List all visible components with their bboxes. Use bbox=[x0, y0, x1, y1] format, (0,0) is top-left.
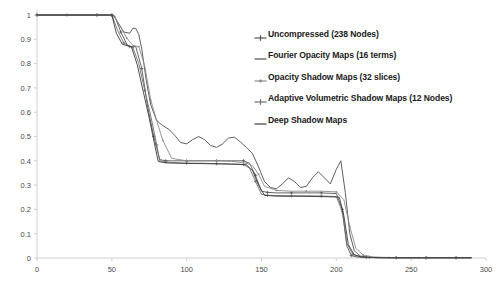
legend-item-label: Opacity Shadow Maps (32 slices) bbox=[268, 72, 400, 82]
legend-marker-line-icon bbox=[254, 115, 267, 125]
x-tick-label: 50 bbox=[108, 265, 116, 274]
y-tick-label: 0.5 bbox=[21, 132, 31, 141]
marker bbox=[276, 190, 278, 192]
legend-item-label: Deep Shadow Maps bbox=[268, 115, 347, 125]
marker bbox=[362, 254, 364, 256]
x-tick-label: 250 bbox=[405, 265, 418, 274]
chart-legend: Uncompressed (238 Nodes)Fourier Opacity … bbox=[254, 23, 494, 131]
marker bbox=[349, 226, 351, 228]
marker bbox=[162, 139, 164, 141]
x-tick-label: 200 bbox=[330, 265, 343, 274]
marker bbox=[186, 160, 188, 162]
x-tick-label: 300 bbox=[480, 265, 493, 274]
legend-marker-dot-icon bbox=[254, 72, 267, 82]
y-tick-label: 0.7 bbox=[21, 84, 31, 93]
legend-item-label: Fourier Opacity Maps (16 terms) bbox=[268, 50, 396, 60]
y-tick-label: 0.9 bbox=[21, 35, 31, 44]
marker bbox=[335, 191, 337, 193]
legend-item: Opacity Shadow Maps (32 slices) bbox=[254, 66, 494, 88]
legend-marker-plus-icon bbox=[254, 93, 267, 103]
marker bbox=[138, 46, 140, 48]
y-tick-label: 1 bbox=[27, 11, 31, 20]
legend-item: Uncompressed (238 Nodes) bbox=[254, 23, 494, 45]
marker bbox=[246, 162, 248, 164]
y-tick-label: 0.2 bbox=[21, 205, 31, 214]
x-tick-label: 150 bbox=[255, 265, 268, 274]
x-tick-label: 0 bbox=[35, 265, 39, 274]
chart-container: 00.10.20.30.40.50.60.70.80.9105010015020… bbox=[0, 0, 496, 290]
legend-marker-line-icon bbox=[254, 50, 267, 60]
marker bbox=[114, 17, 116, 19]
legend-item: Adaptive Volumetric Shadow Maps (12 Node… bbox=[254, 88, 494, 110]
x-tick-label: 100 bbox=[180, 265, 193, 274]
y-tick-label: 0.4 bbox=[21, 157, 31, 166]
legend-item: Fourier Opacity Maps (16 terms) bbox=[254, 45, 494, 67]
marker bbox=[150, 99, 152, 101]
legend-dot bbox=[259, 79, 262, 82]
marker bbox=[126, 37, 128, 39]
y-tick-label: 0 bbox=[27, 254, 31, 263]
y-tick-label: 0.8 bbox=[21, 59, 31, 68]
marker bbox=[216, 160, 218, 162]
legend-marker-plus-icon bbox=[254, 29, 267, 39]
legend-item-label: Adaptive Volumetric Shadow Maps (12 Node… bbox=[268, 93, 452, 103]
legend-item-label: Uncompressed (238 Nodes) bbox=[268, 29, 379, 39]
legend-item: Deep Shadow Maps bbox=[254, 109, 494, 131]
marker bbox=[258, 173, 260, 175]
marker bbox=[306, 190, 308, 192]
y-tick-label: 0.6 bbox=[21, 108, 31, 117]
y-tick-label: 0.3 bbox=[21, 181, 31, 190]
y-tick-label: 0.1 bbox=[21, 230, 31, 239]
